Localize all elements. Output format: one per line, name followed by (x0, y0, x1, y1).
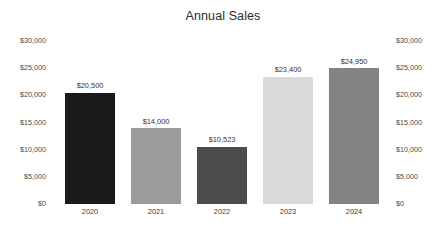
y-tick-label-left: $30,000 (20, 37, 46, 44)
bar-chart: Annual Sales $30,000$25,000$20,000$15,00… (0, 0, 446, 229)
bar-2024[interactable] (329, 68, 379, 204)
y-tick-label-right: $20,000 (396, 92, 422, 99)
bar-value-label: $10,523 (197, 136, 247, 143)
bar-group: $23,400 (263, 41, 313, 204)
y-tick-label-left: $25,000 (20, 65, 46, 72)
x-tick-label-2023: 2023 (263, 208, 313, 215)
plot-area: $20,500$14,000$10,523$23,400$24,950 (57, 41, 387, 204)
x-tick-label-2024: 2024 (329, 208, 379, 215)
bar-2022[interactable] (197, 147, 247, 204)
y-axis-right: $30,000$25,000$20,000$15,000$10,000$5,00… (390, 41, 446, 204)
bar-2023[interactable] (263, 77, 313, 204)
bar-value-label: $14,000 (131, 118, 181, 125)
y-tick-label-left: $0 (38, 200, 46, 207)
y-tick-label-left: $20,000 (20, 92, 46, 99)
y-axis-left: $30,000$25,000$20,000$15,000$10,000$5,00… (0, 41, 52, 204)
bar-group: $10,523 (197, 41, 247, 204)
y-tick-label-left: $5,000 (24, 173, 46, 180)
bar-value-label: $20,500 (65, 82, 115, 89)
y-tick-label-left: $15,000 (20, 119, 46, 126)
y-tick-label-left: $10,000 (20, 146, 46, 153)
x-tick-label-2021: 2021 (131, 208, 181, 215)
bar-group: $24,950 (329, 41, 379, 204)
bar-value-label: $23,400 (263, 66, 313, 73)
bar-value-label: $24,950 (329, 58, 379, 65)
x-tick-label-2022: 2022 (197, 208, 247, 215)
bar-2021[interactable] (131, 128, 181, 204)
bar-group: $20,500 (65, 41, 115, 204)
y-tick-label-right: $5,000 (396, 173, 418, 180)
y-tick-label-right: $25,000 (396, 65, 422, 72)
y-tick-label-right: $10,000 (396, 146, 422, 153)
y-tick-label-right: $15,000 (396, 119, 422, 126)
bar-group: $14,000 (131, 41, 181, 204)
chart-title: Annual Sales (0, 9, 446, 23)
bar-2020[interactable] (65, 93, 115, 204)
x-tick-label-2020: 2020 (65, 208, 115, 215)
y-tick-label-right: $30,000 (396, 37, 422, 44)
y-tick-label-right: $0 (396, 200, 404, 207)
